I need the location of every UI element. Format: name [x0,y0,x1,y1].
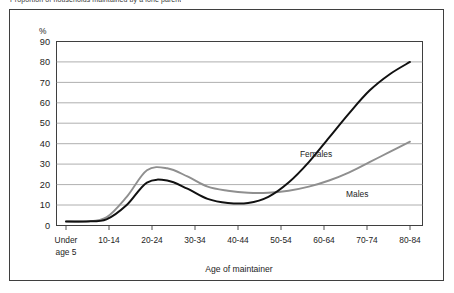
y-tick-90: 90 [40,37,50,47]
y-tick-40: 40 [40,139,50,149]
series-label-males: Males [346,189,368,199]
x-axis-tickmarks [66,226,410,231]
x-tick-60-64: 60-64 [313,235,335,245]
y-tick-30: 30 [40,159,50,169]
y-tick-70: 70 [40,78,50,88]
x-axis-title: Age of maintainer [205,264,272,274]
x-tick-30-34: 30-34 [184,235,206,245]
x-tick-70-74: 70-74 [356,235,378,245]
gridlines [57,62,423,205]
y-tick-0: 0 [45,221,50,231]
x-tick-under-age-5-line1: Under [55,235,78,245]
x-tick-40-44: 40-44 [227,235,249,245]
x-axis-ticks: Under age 5 10-14 20-24 30-34 40-44 50-5… [55,235,421,257]
y-tick-20: 20 [40,180,50,190]
x-tick-10-14: 10-14 [98,235,120,245]
y-tick-10: 10 [40,200,50,210]
x-tick-under-age-5-line2: age 5 [56,247,77,257]
y-axis-ticks: 90 80 70 60 50 40 30 20 10 0 [40,37,50,231]
series-label-females: Females [300,149,332,159]
x-tick-20-24: 20-24 [141,235,163,245]
line-chart: 90 80 70 60 50 40 30 20 10 0 % Unde [0,0,454,293]
y-axis-unit-label: % [39,26,47,36]
figure-root: Proportion of households maintained by a… [0,0,454,293]
y-tick-80: 80 [40,57,50,67]
series-line-males [66,142,410,222]
y-tick-60: 60 [40,98,50,108]
x-tick-50-54: 50-54 [270,235,292,245]
y-tick-50: 50 [40,118,50,128]
x-tick-80-84: 80-84 [399,235,421,245]
